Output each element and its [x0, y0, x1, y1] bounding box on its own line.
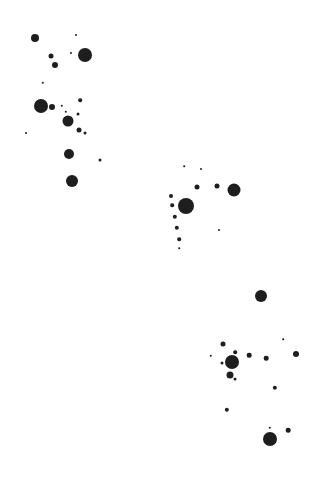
- dot: [99, 159, 102, 162]
- dot: [215, 184, 220, 189]
- dot: [178, 247, 180, 249]
- dot: [78, 98, 82, 102]
- dot: [170, 203, 174, 207]
- dot: [77, 128, 82, 133]
- dot: [228, 184, 241, 197]
- dot: [293, 351, 299, 357]
- dot: [263, 432, 277, 446]
- dot: [84, 132, 87, 135]
- dot: [31, 34, 39, 42]
- dot: [227, 372, 234, 379]
- dot: [233, 350, 237, 354]
- dot: [221, 362, 224, 365]
- dot: [75, 34, 77, 36]
- dot: [61, 105, 63, 107]
- dot: [34, 99, 48, 113]
- dot: [175, 226, 179, 230]
- dot: [264, 356, 269, 361]
- dot: [210, 355, 212, 357]
- dot: [173, 215, 177, 219]
- dot: [49, 54, 54, 59]
- dot: [247, 353, 252, 358]
- dot: [64, 149, 74, 159]
- dot: [225, 355, 239, 369]
- dot: [42, 82, 44, 84]
- dot: [178, 198, 194, 214]
- star-field: [0, 0, 318, 480]
- dot: [255, 290, 267, 302]
- dot: [70, 52, 72, 54]
- dot: [77, 113, 80, 116]
- dot: [218, 229, 220, 231]
- dot: [234, 378, 237, 381]
- dot: [273, 386, 277, 390]
- dot: [52, 62, 58, 68]
- dot: [65, 111, 67, 113]
- dot: [25, 132, 27, 134]
- dot: [225, 408, 229, 412]
- dot: [63, 116, 74, 127]
- dot: [66, 175, 78, 187]
- dot: [286, 428, 291, 433]
- dot: [78, 48, 92, 62]
- dot: [177, 237, 181, 241]
- dot: [269, 427, 271, 429]
- dot: [282, 338, 284, 340]
- dot: [183, 165, 185, 167]
- dot: [49, 104, 55, 110]
- dot: [200, 168, 202, 170]
- dot: [169, 194, 173, 198]
- dot: [195, 185, 200, 190]
- dot: [221, 342, 226, 347]
